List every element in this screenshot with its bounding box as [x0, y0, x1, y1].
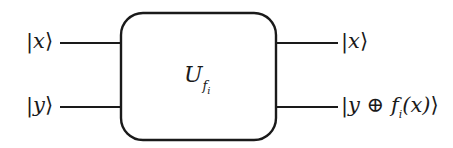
ket-function-argument: (x) [402, 93, 430, 117]
output-label-y-xor-f: |y ⊕ fi(x)⟩ [341, 95, 439, 116]
gate-symbol: U [184, 62, 203, 87]
input-label-x: |x⟩ [26, 31, 53, 52]
gate-subscript: fi [203, 78, 211, 93]
gate-subscript-i: i [207, 85, 210, 96]
ket-angle: ⟩ [430, 93, 438, 117]
input-label-y: |y⟩ [26, 95, 53, 116]
ket-variable: x [33, 29, 45, 53]
circuit-canvas [0, 0, 453, 148]
output-label-x: |x⟩ [341, 31, 368, 52]
ket-angle: ⟩ [45, 93, 53, 117]
ket-function: f [391, 93, 399, 117]
ket-function-subscript: i [399, 108, 403, 121]
ket-angle: ⟩ [45, 29, 53, 53]
ket-angle: ⟩ [360, 29, 368, 53]
ket-variable: y [33, 93, 45, 117]
ket-variable: x [348, 29, 360, 53]
ket-y-xor: y ⊕ [348, 93, 391, 117]
gate-label: Ufi [184, 64, 211, 86]
